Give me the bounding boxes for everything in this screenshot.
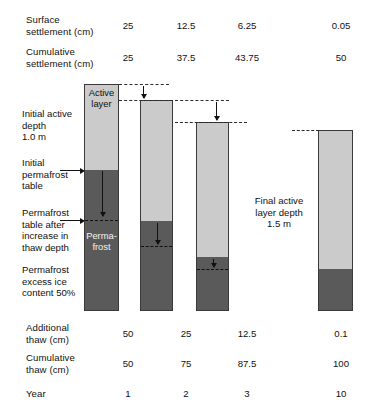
- thaw-increase-arrow-year2: [157, 223, 158, 244]
- cumulative-thaw-value-year1: 50: [123, 358, 134, 369]
- additional-thaw-value-year3: 12.5: [238, 328, 257, 339]
- year-value-year10: 10: [336, 388, 347, 399]
- settlement-arrow-year1-to-year2: [143, 86, 144, 98]
- thaw-increase-arrow-year1: [102, 171, 103, 216]
- soil-column-year1: Active layer Perma- frost: [84, 84, 119, 311]
- year-row-label: Year: [26, 388, 46, 400]
- additional-thaw-row-label: Additional thaw (cm): [26, 322, 69, 345]
- cumulative-settlement-value-year10: 50: [336, 52, 347, 63]
- permafrost-segment-year10: [319, 269, 352, 310]
- soil-column-year10: [318, 130, 353, 311]
- settlement-arrow-year2-to-year3: [216, 102, 217, 120]
- additional-thaw-value-year10: 0.1: [334, 328, 347, 339]
- label-final-active-layer-depth: Final active layer depth 1.5 m: [244, 195, 314, 230]
- soil-column-year2: [140, 100, 173, 311]
- label-permafrost-table-after-thaw: Permafrost table after increase in thaw …: [22, 207, 69, 253]
- label-initial-permafrost-table: Initial permafrost table: [22, 157, 68, 192]
- label-permafrost-excess-ice: Permafrost excess ice content 50%: [22, 264, 75, 299]
- cumulative-thaw-value-year10: 100: [333, 358, 349, 369]
- additional-thaw-value-year2: 25: [181, 328, 192, 339]
- surface-guide-year1: [119, 84, 169, 85]
- surface-settlement-value-year2: 12.5: [177, 20, 196, 31]
- additional-thaw-value-year1: 50: [123, 328, 134, 339]
- thaw-depth-guide-year1: [85, 220, 118, 221]
- cumulative-settlement-row-label: Cumulative settlement (cm): [26, 46, 94, 69]
- surface-settlement-value-year1: 25: [123, 20, 134, 31]
- cumulative-thaw-value-year2: 75: [181, 358, 192, 369]
- thaw-depth-guide-year3: [197, 269, 228, 270]
- surface-guide-year10: [292, 130, 319, 131]
- surface-guide-year3: [175, 122, 247, 123]
- surface-settlement-value-year10: 0.05: [332, 20, 351, 31]
- surface-settlement-value-year3: 6.25: [238, 20, 257, 31]
- pointer-arrow-initial-permafrost-table: [60, 170, 84, 171]
- soil-column-year3: [196, 122, 229, 311]
- year-value-year3: 3: [244, 388, 249, 399]
- permafrost-text-year1: Perma- frost: [85, 231, 118, 253]
- cumulative-thaw-value-year3: 87.5: [238, 358, 257, 369]
- surface-guide-year2: [119, 100, 229, 101]
- pointer-arrow-permafrost-table-after-thaw: [60, 220, 84, 221]
- active-layer-segment-year3: [197, 123, 228, 257]
- active-layer-text-year1: Active layer: [85, 88, 118, 110]
- year-value-year2: 2: [183, 388, 188, 399]
- cumulative-settlement-value-year1: 25: [123, 52, 134, 63]
- thaw-depth-guide-year2: [141, 246, 172, 247]
- surface-settlement-row-label: Surface settlement (cm): [26, 14, 94, 37]
- active-layer-segment-year2: [141, 101, 172, 221]
- year-value-year1: 1: [125, 388, 130, 399]
- permafrost-settlement-diagram: Surface settlement (cm) 25 12.5 6.25 0.0…: [0, 0, 392, 416]
- thaw-increase-arrow-year3: [213, 259, 214, 267]
- cumulative-settlement-value-year2: 37.5: [177, 52, 196, 63]
- cumulative-thaw-row-label: Cumulative thaw (cm): [26, 352, 75, 375]
- cumulative-settlement-value-year3: 43.75: [235, 52, 259, 63]
- label-initial-active-depth: Initial active depth 1.0 m: [22, 108, 72, 143]
- active-layer-segment-year10: [319, 131, 352, 269]
